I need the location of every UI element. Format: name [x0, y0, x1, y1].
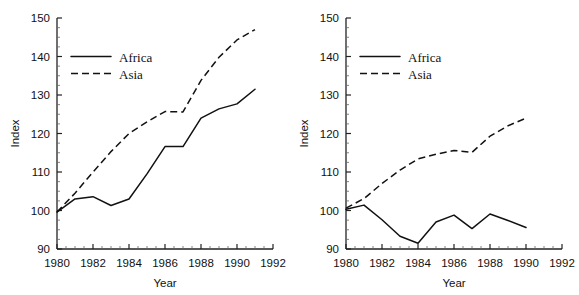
x-axis-title: Year: [153, 277, 176, 289]
x-tick-label: 1984: [116, 257, 142, 269]
y-tick-label: 130: [31, 89, 50, 101]
x-tick-label: 1988: [188, 257, 214, 269]
x-tick-label: 1992: [549, 257, 575, 269]
y-axis-title: Index: [298, 119, 310, 147]
series-line-africa: [57, 89, 255, 212]
y-tick-label: 150: [320, 12, 339, 24]
x-tick-label: 1990: [224, 257, 250, 269]
x-tick-label: 1990: [513, 257, 539, 269]
x-tick-label: 1980: [333, 257, 359, 269]
y-tick-label: 120: [320, 128, 339, 140]
x-tick-label: 1992: [260, 257, 286, 269]
series-line-asia: [346, 118, 526, 208]
y-tick-label: 100: [320, 205, 339, 217]
x-axis-title: Year: [442, 277, 465, 289]
chart-panel-right: 9010011012013014015019801982198419861988…: [289, 0, 578, 295]
right-chart-canvas: 9010011012013014015019801982198419861988…: [289, 0, 578, 295]
x-tick-label: 1982: [80, 257, 106, 269]
legend-label-asia: Asia: [119, 67, 143, 82]
y-tick-label: 90: [37, 243, 50, 255]
legend-label-africa: Africa: [119, 50, 152, 65]
legend-label-asia: Asia: [408, 67, 432, 82]
y-tick-label: 120: [31, 128, 50, 140]
x-tick-label: 1984: [405, 257, 431, 269]
y-tick-label: 130: [320, 89, 339, 101]
legend-label-africa: Africa: [408, 50, 441, 65]
y-tick-label: 150: [31, 12, 50, 24]
x-tick-label: 1988: [477, 257, 503, 269]
y-tick-label: 100: [31, 205, 50, 217]
y-tick-label: 140: [320, 51, 339, 63]
y-tick-label: 110: [321, 166, 339, 178]
x-tick-label: 1982: [369, 257, 395, 269]
x-tick-label: 1986: [152, 257, 178, 269]
y-axis-title: Index: [9, 119, 21, 147]
x-tick-label: 1986: [441, 257, 467, 269]
y-tick-label: 140: [31, 51, 50, 63]
x-tick-label: 1980: [44, 257, 70, 269]
series-line-africa: [346, 205, 526, 243]
y-tick-label: 110: [32, 166, 50, 178]
chart-panel-left: 9010011012013014015019801982198419861988…: [0, 0, 289, 295]
two-panel-line-chart-figure: 9010011012013014015019801982198419861988…: [0, 0, 579, 295]
y-tick-label: 90: [326, 243, 339, 255]
left-chart-canvas: 9010011012013014015019801982198419861988…: [0, 0, 289, 295]
